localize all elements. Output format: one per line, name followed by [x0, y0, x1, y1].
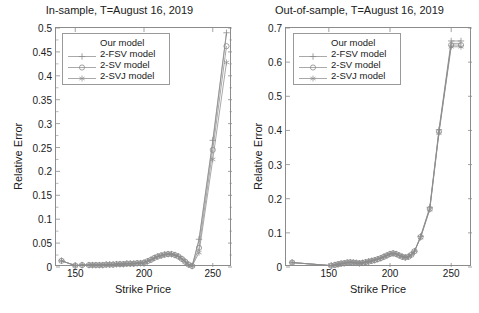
- legend-marker-circle-icon: [298, 59, 328, 70]
- y-tick-label: 0.4: [268, 125, 282, 136]
- legend-item[interactable]: 2-FSV model: [298, 48, 396, 59]
- y-tick-label: 0.2: [38, 166, 52, 177]
- legend-label: Our model: [331, 37, 375, 48]
- y-axis-label-in-sample: Relative Error: [12, 123, 24, 190]
- y-tick-label: 0.1: [38, 214, 52, 225]
- legend-item[interactable]: 2-FSV model: [67, 48, 165, 59]
- y-axis-label-out-of-sample: Relative Error: [252, 123, 264, 190]
- legend-out-of-sample: Our model2-FSV model2-SV model2-SVJ mode…: [293, 33, 401, 85]
- y-tick-label: 0.05: [33, 238, 52, 249]
- x-tick-label: 250: [204, 268, 221, 279]
- y-tick-label: 0: [46, 262, 52, 273]
- legend-label: 2-SVJ model: [331, 70, 385, 81]
- x-tick-label: 200: [382, 268, 399, 279]
- y-tick-label: 0.45: [33, 46, 52, 57]
- legend-label: 2-FSV model: [331, 48, 386, 59]
- plot-title-out-of-sample: Out-of-sample, T=August 16, 2019: [240, 4, 479, 16]
- x-axis-label-out-of-sample: Strike Price: [285, 283, 471, 295]
- legend-item[interactable]: Our model: [298, 37, 396, 48]
- legend-item[interactable]: 2-SV model: [67, 59, 165, 70]
- legend-marker-asterisk-icon: [298, 70, 328, 81]
- figure-container: In-sample, T=August 16, 2019 Relative Er…: [0, 0, 479, 313]
- legend-marker-plus-icon: [298, 48, 328, 59]
- y-tick-label: 0: [276, 262, 282, 273]
- legend-label: Our model: [100, 37, 144, 48]
- plot-title-in-sample: In-sample, T=August 16, 2019: [0, 4, 239, 16]
- legend-marker-plus-icon: [67, 48, 97, 59]
- legend-marker-none-icon: [67, 37, 97, 48]
- legend-item[interactable]: 2-SV model: [298, 59, 396, 70]
- x-tick-label: 200: [136, 268, 153, 279]
- legend-marker-none-icon: [298, 37, 328, 48]
- y-tick-label: 0.35: [33, 94, 52, 105]
- legend-item[interactable]: Our model: [67, 37, 165, 48]
- legend-item[interactable]: 2-SVJ model: [67, 70, 165, 81]
- panel-in-sample: In-sample, T=August 16, 2019 Relative Er…: [0, 0, 239, 313]
- legend-item[interactable]: 2-SVJ model: [298, 70, 396, 81]
- y-tick-label: 0.7: [268, 23, 282, 34]
- panel-out-of-sample: Out-of-sample, T=August 16, 2019 Relativ…: [240, 0, 479, 313]
- y-tick-label: 0.5: [38, 23, 52, 34]
- x-tick-label: 250: [443, 268, 460, 279]
- legend-label: 2-SV model: [100, 59, 150, 70]
- y-tick-label: 0.5: [268, 91, 282, 102]
- legend-marker-circle-icon: [67, 59, 97, 70]
- y-tick-label: 0.4: [38, 70, 52, 81]
- x-tick-label: 150: [320, 268, 337, 279]
- y-tick-label: 0.3: [38, 118, 52, 129]
- legend-label: 2-SV model: [331, 59, 381, 70]
- x-axis-label-in-sample: Strike Price: [55, 283, 231, 295]
- y-tick-label: 0.15: [33, 190, 52, 201]
- y-tick-label: 0.6: [268, 57, 282, 68]
- y-tick-label: 0.25: [33, 142, 52, 153]
- legend-label: 2-FSV model: [100, 48, 155, 59]
- y-tick-label: 0.1: [268, 227, 282, 238]
- legend-in-sample: Our model2-FSV model2-SV model2-SVJ mode…: [62, 33, 170, 85]
- y-tick-label: 0.3: [268, 159, 282, 170]
- legend-label: 2-SVJ model: [100, 70, 154, 81]
- x-tick-label: 150: [67, 268, 84, 279]
- legend-marker-asterisk-icon: [67, 70, 97, 81]
- y-tick-label: 0.2: [268, 193, 282, 204]
